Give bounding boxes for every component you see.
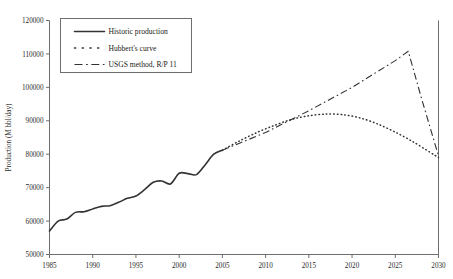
x-tick-label: 2005 bbox=[215, 262, 230, 270]
series-line-0 bbox=[50, 150, 223, 231]
y-tick-label: 80000 bbox=[26, 151, 44, 159]
x-tick-label: 2025 bbox=[388, 262, 403, 270]
x-tick-label: 2015 bbox=[302, 262, 317, 270]
y-axis-title: Production (M bbl/day) bbox=[5, 103, 13, 171]
legend-label-0: Historic production bbox=[109, 27, 168, 36]
y-axis-ticks: 5000060000700008000090000100000110000120… bbox=[22, 17, 50, 259]
legend-label-2: USGS method, R/P 11 bbox=[109, 60, 177, 69]
x-axis-ticks: 1985199019952000200520102015202020252030 bbox=[42, 255, 446, 270]
y-tick-label: 120000 bbox=[22, 17, 44, 25]
legend-label-1: Hubbert's curve bbox=[109, 44, 158, 53]
series-line-2 bbox=[222, 51, 438, 156]
x-tick-label: 2030 bbox=[431, 262, 446, 270]
chart-series bbox=[50, 51, 439, 231]
y-tick-label: 70000 bbox=[26, 184, 44, 192]
y-tick-label: 50000 bbox=[26, 251, 44, 259]
production-forecast-chart: 5000060000700008000090000100000110000120… bbox=[0, 0, 453, 279]
y-tick-label: 60000 bbox=[26, 218, 44, 226]
y-axis-title-text: Production (M bbl/day) bbox=[5, 103, 13, 171]
chart-canvas: 5000060000700008000090000100000110000120… bbox=[0, 0, 453, 279]
chart-legend: Historic productionHubbert's curveUSGS m… bbox=[61, 19, 192, 73]
y-tick-label: 110000 bbox=[22, 51, 44, 59]
x-tick-label: 1990 bbox=[86, 262, 101, 270]
x-tick-label: 2020 bbox=[345, 262, 360, 270]
x-tick-label: 1985 bbox=[42, 262, 57, 270]
x-tick-label: 1995 bbox=[129, 262, 144, 270]
x-tick-label: 2000 bbox=[172, 262, 187, 270]
y-tick-label: 100000 bbox=[22, 84, 44, 92]
series-line-1 bbox=[222, 114, 438, 158]
x-tick-label: 2010 bbox=[258, 262, 273, 270]
y-tick-label: 90000 bbox=[26, 117, 44, 125]
